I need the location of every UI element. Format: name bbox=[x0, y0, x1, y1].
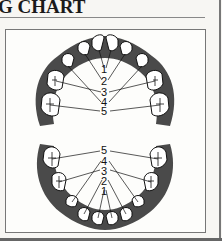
lower-arch: 5 4 3 2 1 bbox=[37, 144, 173, 230]
lower-label-1: 1 bbox=[101, 185, 107, 197]
upper-label-1: 1 bbox=[101, 63, 107, 75]
lower-canine-left-icon bbox=[66, 196, 78, 207]
upper-arch: 1 2 3 4 5 bbox=[36, 35, 175, 126]
upper-incisor-lateral-right-icon bbox=[120, 42, 132, 55]
upper-molar-second-right-icon bbox=[150, 93, 169, 116]
lower-incisor-lateral-right-icon bbox=[120, 208, 132, 221]
lower-molar-second-right-icon bbox=[150, 147, 167, 168]
lower-incisor-lateral-left-icon bbox=[78, 208, 90, 221]
upper-label-5: 5 bbox=[101, 105, 107, 117]
lower-molar-second-left-icon bbox=[43, 147, 60, 168]
dental-arch-diagram: 1 2 3 4 5 bbox=[0, 0, 222, 241]
upper-canine-right-icon bbox=[136, 54, 148, 67]
upper-incisor-lateral-left-icon bbox=[78, 42, 90, 55]
upper-molar-second-left-icon bbox=[41, 93, 60, 116]
lower-canine-right-icon bbox=[132, 196, 144, 207]
lower-incisor-central-right-icon bbox=[106, 212, 118, 225]
upper-canine-left-icon bbox=[62, 54, 74, 67]
lower-incisor-central-left-icon bbox=[92, 212, 104, 225]
